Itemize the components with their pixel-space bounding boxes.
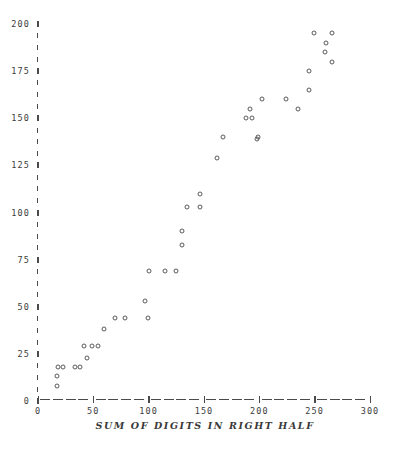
data-point [145,316,150,321]
data-point [283,97,288,102]
x-tick-label-300: 300 [350,406,390,416]
data-point [123,316,128,321]
x-axis-dash [40,399,50,400]
y-tick-label-200: 200 [0,19,30,29]
data-point [84,355,89,360]
data-point [61,365,66,370]
data-point [244,116,249,121]
y-tick-label-150: 150 [0,113,30,123]
x-axis-tick [314,396,316,403]
x-axis-dash [355,399,365,400]
data-point [215,155,220,160]
y-axis-dash [37,57,38,62]
x-axis-tick [370,396,372,403]
x-axis-dash [300,399,310,400]
x-axis-dash [53,399,63,400]
y-axis-dash [37,292,38,297]
x-axis-dash [287,399,297,400]
y-axis-dash [37,175,38,180]
x-axis-dash [219,399,229,400]
x-axis-dash [78,399,88,400]
y-axis-dash [37,375,38,380]
x-axis-dash [232,399,242,400]
data-point [322,50,327,55]
data-point [311,31,316,36]
x-tick-label-150: 150 [184,406,224,416]
y-axis-dash [37,80,38,85]
data-point [102,327,107,332]
x-tick-label-250: 250 [295,406,335,416]
y-axis-dash [37,33,38,38]
x-tick-label-100: 100 [129,406,169,416]
data-point [82,344,87,349]
y-axis-tick [37,257,39,263]
y-axis-dash [37,45,38,50]
y-axis-dash [37,281,38,286]
data-point [197,191,202,196]
y-axis-dash [37,269,38,274]
x-axis-dash [342,399,352,400]
data-point [72,365,77,370]
x-axis-dash [206,399,216,400]
y-axis-tick [37,68,39,74]
data-point [256,135,261,140]
x-tick-label-0: 0 [18,406,58,416]
x-axis-dash [121,399,131,400]
x-axis-dash [274,399,284,400]
data-point [330,59,335,64]
y-tick-label-125: 125 [0,160,30,170]
y-tick-label-50: 50 [0,302,30,312]
y-axis-dash [37,92,38,97]
y-axis-tick [37,304,39,310]
x-axis-dash [262,399,272,400]
data-point [54,383,59,388]
data-point [54,374,59,379]
data-point [185,204,190,209]
data-point [90,344,95,349]
x-axis-tick [204,396,206,403]
x-axis-dash [134,399,144,400]
data-point [179,229,184,234]
data-point [307,69,312,74]
x-tick-label-50: 50 [73,406,113,416]
x-axis-dash [66,399,76,400]
y-axis-dash [37,328,38,333]
x-axis-dash [151,399,161,400]
y-tick-label-75: 75 [0,255,30,265]
data-point [259,97,264,102]
data-point [248,106,253,111]
data-point [143,299,148,304]
x-axis-tick [259,396,261,403]
data-point [249,116,254,121]
y-axis-dash [37,139,38,144]
y-tick-label-0: 0 [0,396,30,406]
data-point [330,31,335,36]
data-point [197,204,202,209]
y-axis-dash [37,128,38,133]
data-point [323,40,328,45]
data-point [163,268,168,273]
data-point [146,268,151,273]
x-axis-dash [317,399,327,400]
data-point [220,135,225,140]
x-axis-dash [244,399,254,400]
x-axis-dash [176,399,186,400]
y-axis-dash [37,198,38,203]
x-axis-dash [164,399,174,400]
x-tick-label-200: 200 [239,406,279,416]
y-axis-dash [37,340,38,345]
y-axis-tick [37,210,39,216]
x-axis-tick [38,396,40,403]
x-axis-dash [330,399,340,400]
y-axis-dash [37,104,38,109]
y-axis-dash [37,234,38,239]
y-axis-dash [37,363,38,368]
y-axis-dash [37,316,38,321]
y-axis-tick [37,115,39,121]
scatter-plot-figure: 0255075100125150175200 05010015020025030… [0,0,404,450]
x-axis-tick [93,396,95,403]
data-point [95,344,100,349]
y-axis-dash [37,151,38,156]
y-axis-dash [37,186,38,191]
data-point [174,268,179,273]
